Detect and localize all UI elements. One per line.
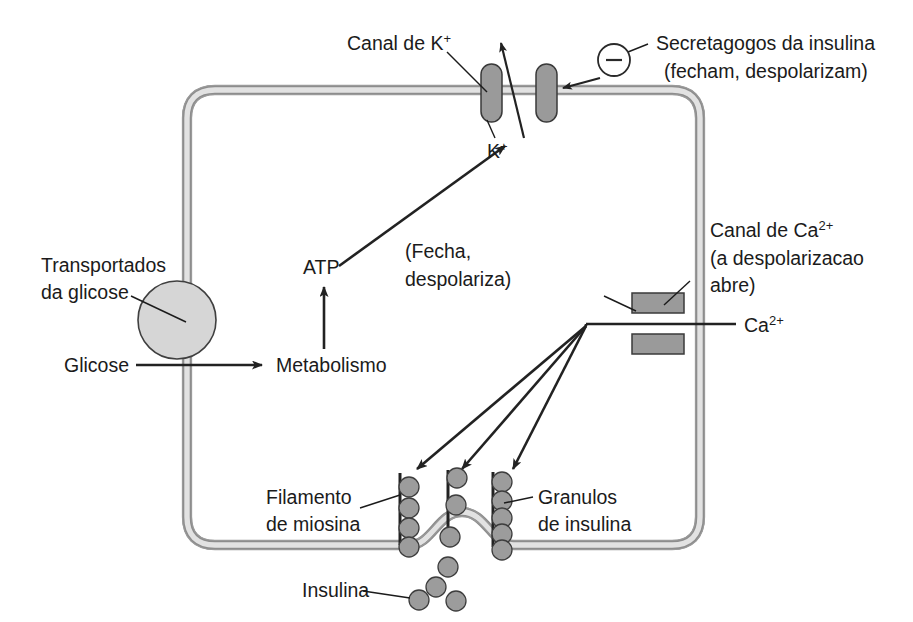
secretagogue-inhibition bbox=[563, 44, 648, 88]
potassium-channel-left bbox=[481, 64, 502, 122]
calcium-influx-path bbox=[417, 324, 736, 469]
myosin-label-leader bbox=[360, 495, 400, 508]
potassium-channel-label: Canal de K+ bbox=[347, 31, 451, 55]
insulin-granules-label-line1: Granulos bbox=[538, 486, 617, 508]
glucose-label: Glicose bbox=[64, 354, 129, 376]
calcium-channel bbox=[604, 281, 690, 354]
myosin-filament-1 bbox=[399, 473, 419, 557]
myosin-filament-2 bbox=[440, 468, 467, 547]
potassium-channel-right bbox=[536, 64, 557, 122]
secretagogue-label-line2: (fecham, despolarizam) bbox=[664, 60, 868, 82]
calcium-ion-label: Ca2+ bbox=[744, 313, 784, 337]
secretagogue-label-line1: Secretagogos da insulina bbox=[656, 32, 875, 54]
insulin-label: Insulina bbox=[302, 579, 369, 601]
calcium-channel-label-line3: abre) bbox=[710, 274, 756, 296]
glucose-transporter-label-line2: da glicose bbox=[41, 281, 129, 303]
closes-depolarizes-line2: despolariza) bbox=[405, 268, 511, 290]
closes-depolarizes-line1: (Fecha, bbox=[405, 240, 471, 262]
myosin-filament-3 bbox=[492, 472, 512, 560]
cell-membrane bbox=[182, 85, 704, 549]
insulin-granules-label-line2: de insulina bbox=[538, 513, 631, 535]
atp-label: ATP bbox=[303, 256, 339, 278]
myosin-filament-label-line2: de miosina bbox=[266, 513, 360, 535]
glucose-transporter-label-line1: Transportados bbox=[41, 254, 166, 276]
calcium-channel-label-line1: Canal de Ca2+ bbox=[710, 218, 833, 242]
potassium-ion-label: K+ bbox=[487, 139, 508, 163]
metabolism-label: Metabolismo bbox=[276, 354, 387, 376]
myosin-filament-label-line1: Filamento bbox=[266, 486, 352, 508]
secreted-insulin-granules bbox=[363, 557, 466, 611]
glucose-transporter bbox=[131, 281, 216, 359]
calcium-channel-label-line2: (a despolarizacao bbox=[710, 247, 864, 269]
insulin-secretion-figure: Canal de K+ Secretagogos da insulina (fe… bbox=[0, 0, 913, 622]
diagram-canvas: Canal de K+ Secretagogos da insulina (fe… bbox=[0, 0, 913, 622]
